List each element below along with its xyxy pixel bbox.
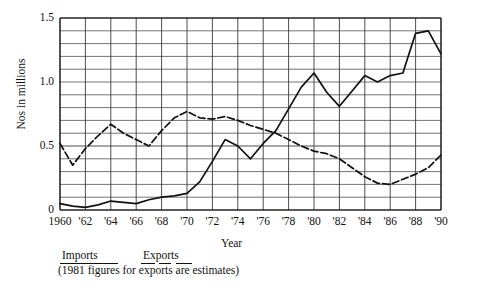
legend-label-imports: Imports: [62, 249, 98, 261]
chart-footnote: (1981 figures for exports are estimates): [58, 264, 239, 276]
y-tick-label: 1.0: [18, 76, 54, 88]
axes-frame: [60, 18, 441, 210]
series-line-exports: [60, 111, 441, 184]
legend-item-exports: Exports: [143, 249, 179, 261]
chart-container: Nos in millions 00.51.01.5 1960'62'64'66…: [0, 0, 477, 287]
grid-minor-lines: [60, 31, 441, 197]
legend-item-imports: Imports: [62, 249, 98, 261]
data-series-layer: [60, 31, 441, 208]
y-tick-label: 1.5: [18, 12, 54, 24]
grid-major-lines: [60, 18, 441, 210]
y-tick-label: 0.5: [18, 140, 54, 152]
series-line-imports: [60, 31, 441, 208]
y-tick-label: 0: [18, 204, 54, 216]
x-axis-title: Year: [221, 237, 242, 249]
legend-label-exports: Exports: [143, 249, 179, 261]
x-tick-label: '90: [424, 216, 458, 228]
